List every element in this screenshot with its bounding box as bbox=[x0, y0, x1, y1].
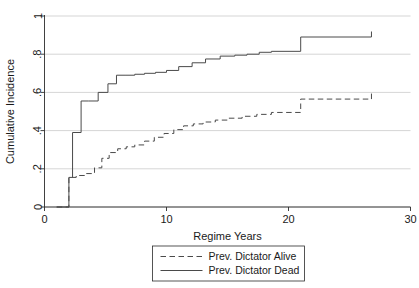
legend: Prev. Dictator AlivePrev. Dictator Dead bbox=[153, 246, 305, 281]
y-tick-label-3: .6 bbox=[32, 88, 44, 97]
chart-canvas: 0.2.4.6.81 0102030 Cumulative Incidence … bbox=[0, 0, 419, 288]
gridlines bbox=[45, 16, 411, 207]
y-tick-label-2: .4 bbox=[32, 126, 44, 135]
data-series bbox=[57, 32, 372, 207]
x-axis-title: Regime Years bbox=[193, 230, 262, 242]
cumulative-incidence-chart: 0.2.4.6.81 0102030 Cumulative Incidence … bbox=[0, 0, 419, 288]
y-tick-label-4: .8 bbox=[32, 50, 44, 59]
x-tick-label-3: 30 bbox=[404, 213, 416, 225]
y-tick-labels: 0.2.4.6.81 bbox=[32, 13, 44, 210]
y-axis-title: Cumulative Incidence bbox=[4, 59, 16, 164]
x-tick-labels: 0102030 bbox=[41, 213, 416, 225]
y-axis bbox=[41, 15, 45, 207]
y-tick-label-0: 0 bbox=[32, 204, 44, 210]
y-tick-label-5: 1 bbox=[32, 13, 44, 19]
legend-label-1: Prev. Dictator Dead bbox=[209, 264, 300, 276]
series-line-0 bbox=[57, 99, 372, 207]
x-tick-label-2: 20 bbox=[282, 213, 294, 225]
series-line-1 bbox=[57, 37, 372, 207]
legend-label-0: Prev. Dictator Alive bbox=[209, 250, 297, 262]
x-tick-label-0: 0 bbox=[41, 213, 47, 225]
x-axis bbox=[45, 207, 411, 211]
x-tick-label-1: 10 bbox=[160, 213, 172, 225]
y-tick-label-1: .2 bbox=[32, 164, 44, 173]
